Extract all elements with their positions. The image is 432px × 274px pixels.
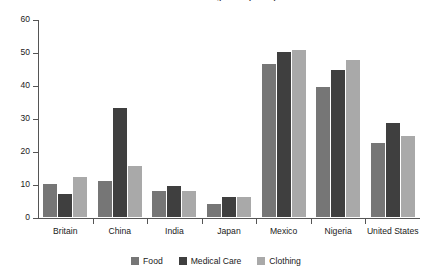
plot-area: 0102030405060 — [38, 20, 420, 218]
bar — [43, 184, 57, 217]
bar-group — [98, 19, 142, 217]
x-axis-category-label: Japan — [202, 226, 257, 237]
legend-swatch-icon — [257, 257, 265, 265]
y-axis-tick-label: 0 — [25, 212, 30, 222]
bar-group — [43, 19, 87, 217]
bar — [371, 143, 385, 217]
y-axis-tick-label: 30 — [21, 113, 30, 123]
x-axis-category-label: India — [147, 226, 202, 237]
x-axis-category-labels: BritainChinaIndiaJapanMexicoNigeriaUnite… — [38, 226, 420, 260]
x-axis-tick — [93, 218, 94, 224]
bar — [98, 181, 112, 217]
x-axis-category-label: Mexico — [256, 226, 311, 237]
bar — [262, 64, 276, 217]
bar-chart-figure: did not have enough money to buy: 010203… — [0, 0, 432, 274]
bar — [58, 194, 72, 217]
bar-group — [152, 19, 196, 217]
legend-item: Clothing — [257, 256, 301, 266]
chart-title: did not have enough money to buy: — [0, 0, 432, 1]
x-axis-category-label: Nigeria — [311, 226, 366, 237]
bar — [167, 186, 181, 217]
bar — [401, 136, 415, 217]
bar — [73, 177, 87, 217]
x-axis-category-label: United States — [365, 226, 420, 237]
bar — [277, 52, 291, 217]
chart-legend: FoodMedical CareClothing — [0, 256, 432, 266]
bar — [128, 166, 142, 217]
legend-item: Food — [131, 256, 163, 266]
x-axis-line — [38, 218, 420, 219]
x-axis-tick — [256, 218, 257, 224]
legend-label: Clothing — [269, 256, 301, 266]
bar — [113, 108, 127, 217]
bar — [182, 191, 196, 217]
bar — [222, 197, 236, 217]
x-axis-tick — [311, 218, 312, 224]
x-axis-category-label: China — [93, 226, 148, 237]
y-axis-tick-label: 60 — [21, 14, 30, 24]
y-axis-tick: 60 — [33, 20, 38, 21]
legend-item: Medical Care — [179, 256, 242, 266]
legend-swatch-icon — [179, 257, 187, 265]
bar — [237, 197, 251, 217]
bar-group — [207, 19, 251, 217]
legend-label: Medical Care — [191, 256, 242, 266]
y-axis-tick: 20 — [33, 152, 38, 153]
x-axis-tick — [147, 218, 148, 224]
bar — [331, 70, 345, 217]
bar-group — [371, 19, 415, 217]
x-axis-tick — [365, 218, 366, 224]
bar — [316, 87, 330, 217]
x-axis-tick — [202, 218, 203, 224]
x-axis-category-label: Britain — [38, 226, 93, 237]
y-axis-tick: 30 — [33, 119, 38, 120]
y-axis-tick-label: 20 — [21, 146, 30, 156]
bar-group — [262, 19, 306, 217]
y-axis-tick-label: 50 — [21, 47, 30, 57]
bar-group — [316, 19, 360, 217]
legend-swatch-icon — [131, 257, 139, 265]
bar — [152, 191, 166, 217]
y-axis-tick: 40 — [33, 86, 38, 87]
bar — [346, 60, 360, 217]
legend-label: Food — [143, 256, 163, 266]
bar — [207, 204, 221, 217]
bar — [386, 123, 400, 217]
y-axis-tick: 50 — [33, 53, 38, 54]
y-axis-tick-label: 40 — [21, 80, 30, 90]
y-axis-tick: 0 — [33, 218, 38, 219]
y-axis-line — [38, 20, 39, 219]
y-axis-tick: 10 — [33, 185, 38, 186]
bar — [292, 50, 306, 217]
y-axis-tick-label: 10 — [21, 179, 30, 189]
